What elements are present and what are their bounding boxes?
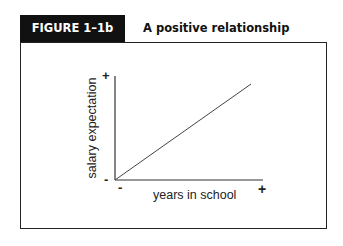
x-axis-label: years in school — [153, 188, 236, 202]
data-line — [115, 84, 251, 180]
y-axis-label: salary expectation — [85, 78, 99, 179]
chart-plot — [0, 0, 343, 246]
x-minus-mark: - — [118, 180, 122, 195]
y-minus-mark: - — [104, 172, 108, 187]
y-plus-mark: + — [102, 68, 110, 83]
x-plus-mark: + — [258, 181, 266, 197]
